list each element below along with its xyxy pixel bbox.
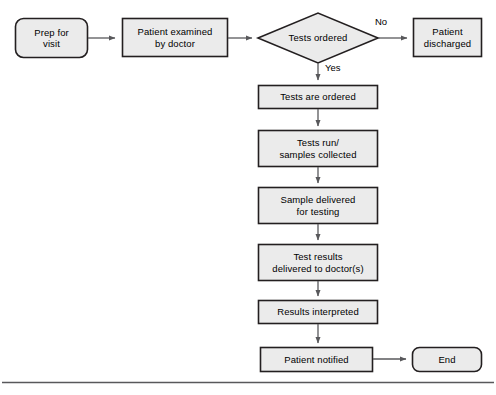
flowchart-canvas: Prep for visit Patient examined by docto… xyxy=(0,0,496,395)
node-shape-prep-for-visit[interactable] xyxy=(16,19,88,58)
node-shape-end[interactable] xyxy=(413,348,482,372)
node-shape-tests-ordered[interactable] xyxy=(258,13,378,63)
node-shape-patient-notified[interactable] xyxy=(261,348,373,372)
node-shape-tests-run-samples-collected[interactable] xyxy=(259,131,378,167)
node-shape-sample-delivered-for-testing[interactable] xyxy=(259,188,378,224)
flowchart-graphics xyxy=(0,0,496,395)
node-shape-results-interpreted[interactable] xyxy=(259,301,378,324)
node-shape-patient-examined-by-doctor[interactable] xyxy=(123,19,228,57)
node-shape-test-results-delivered-to-doctors[interactable] xyxy=(259,245,378,281)
node-shape-patient-discharged[interactable] xyxy=(414,19,482,57)
node-shape-tests-are-ordered[interactable] xyxy=(259,86,378,109)
